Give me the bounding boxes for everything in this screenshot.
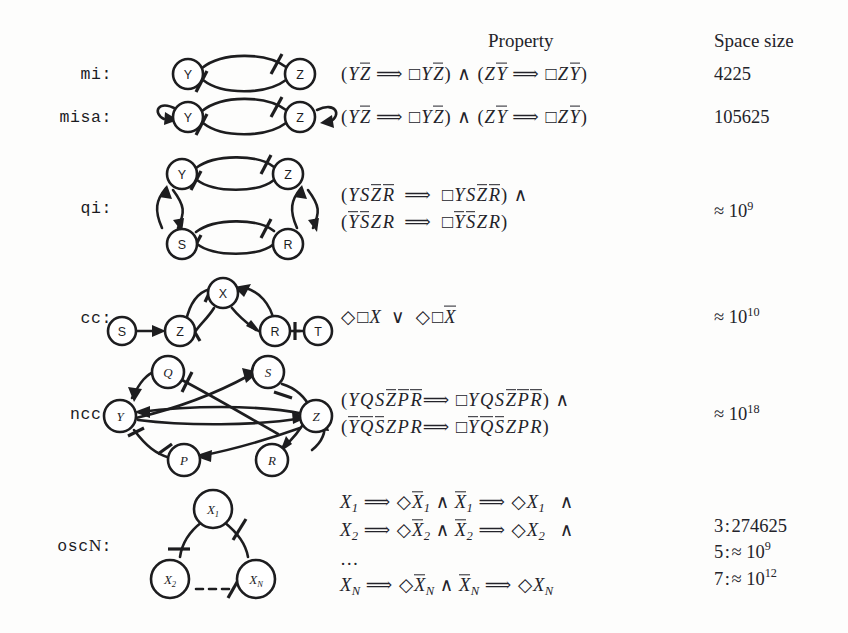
node-label-Y: Y [184,111,193,125]
node-label-S: S [265,365,272,380]
space-size-mi: 4225 [714,61,751,87]
space-size-cc: ≈ 1010 [714,304,759,330]
node-label-Y: Y [184,68,193,82]
row-label-cc: cc: [0,309,112,328]
diagram-oscn-graph: X1 X2 XN [128,487,318,612]
space-size-value: ≈ 1018 [714,401,759,427]
node-label-S: S [118,325,126,339]
property-formula-ncc: (Y Q S Z P R⟹ □Y Q S Z P R) ∧ (Y Q S Z P… [340,387,570,441]
row-label-oscn: oscN: [0,535,112,556]
node-label-P: P [179,453,188,468]
property-formula-oscn: X1 ⟹ ◇X1 ∧ X1 ⟹ ◇X1 ∧ X2 ⟹ ◇X2 ∧ X2 ⟹ ◇X… [340,489,574,600]
row-label-mi: mi: [0,65,112,84]
space-size-value: 105625 [714,104,770,130]
space-size-value-n5: 5 : ≈ 109 [714,539,787,565]
property-formula-misa: (Y Z ⟹ □Y Z) ∧ (Z Y ⟹ □Z Y) [340,104,588,131]
node-label-Z: Z [296,111,304,125]
column-header-space-size: Space size [714,30,794,52]
diagram-misa-graph: Y Z [150,89,350,147]
row-label-misa: misa: [0,108,112,127]
property-formula-qi: (Y S Z R ⟹ □Y S Z R) ∧ (Y S Z R ⟹ □Y S Z… [340,182,528,236]
space-size-value-n3: 3 : 274625 [714,513,787,539]
diagram-cc-graph: S Z X R T [104,276,336,354]
space-size-oscn: 3 : 274625 5 : ≈ 109 7 : ≈ 1012 [714,513,787,592]
node-label-R: R [283,238,292,252]
node-label-X: X [219,287,228,301]
figure-sheet: Property Space size mi: Y Z (Y Z ⟹ □Y Z)… [0,0,848,633]
diagram-qi-graph: Y Z S R [148,150,338,268]
space-size-value: ≈ 1010 [714,304,759,330]
property-formula-cc: ◇□X ∨ ◇□X [340,304,456,331]
node-label-Z: Z [176,325,184,339]
column-header-property: Property [488,30,553,52]
space-size-value: ≈ 109 [714,198,753,224]
space-size-misa: 105625 [714,104,770,130]
property-formula-mi: (Y Z ⟹ □Y Z) ∧ (Z Y ⟹ □Z Y) [340,61,588,88]
node-label-Z: Z [296,68,304,82]
node-label-Z: Z [312,409,320,424]
node-label-Q: Q [163,365,173,380]
node-label-S: S [178,238,186,252]
space-size-value-n7: 7 : ≈ 1012 [714,565,787,591]
space-size-ncc: ≈ 1018 [714,401,759,427]
row-label-qi: qi: [0,199,112,218]
diagram-ncc-graph: Q S Y Z P R [96,354,340,474]
space-size-value: 4225 [714,61,751,87]
space-size-qi: ≈ 109 [714,198,753,224]
node-label-T: T [314,325,322,339]
node-label-Z: Z [284,168,292,182]
node-label-Y: Y [178,168,187,182]
node-label-R: R [270,325,279,339]
node-label-R: R [267,453,276,468]
